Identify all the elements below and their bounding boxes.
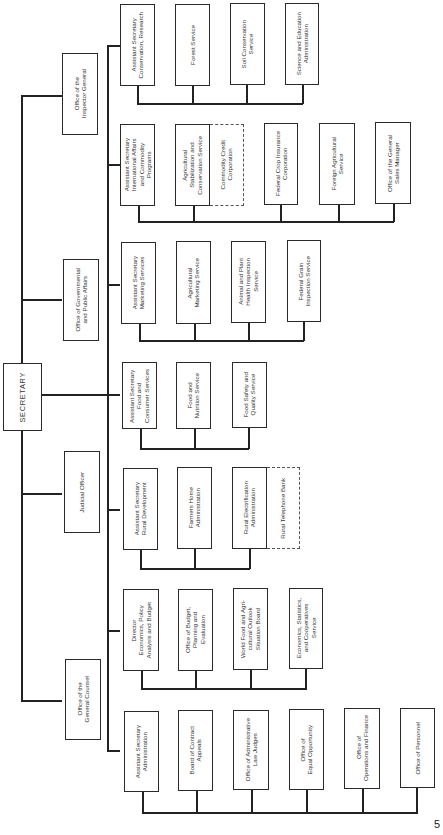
connector-public-affairs xyxy=(21,299,62,301)
food-drop-1 xyxy=(140,429,142,449)
ascs-label: Agricultural Stabilization and Conservat… xyxy=(181,136,203,195)
aphis-label: Animal and Plant Health Inspection Servi… xyxy=(237,258,259,306)
world-food-board-label: World Food and Agri- cultural Outlook Si… xyxy=(239,600,261,658)
grain-inspection-box[interactable]: Federal Grain Inspection Service xyxy=(287,240,321,322)
econ-drop-2 xyxy=(195,671,197,689)
food-safety-label: Food Safety and Quality Service xyxy=(242,372,257,417)
main-bus xyxy=(107,45,109,751)
admin-drop-3 xyxy=(251,790,253,813)
farmers-home-box[interactable]: Farmers Home Administration xyxy=(177,467,212,549)
intl-head-label: Assistant Secretary International Affair… xyxy=(123,138,153,191)
admin-head-box[interactable]: Assistant Secretary Administration xyxy=(124,711,159,792)
food-safety-box[interactable]: Food Safety and Quality Service xyxy=(232,362,267,428)
personnel-box[interactable]: Office of Personnel xyxy=(400,708,435,788)
bus-marketing xyxy=(107,284,120,286)
connector-judicial xyxy=(21,493,62,495)
ag-marketing-label: Agricultural Marketing Service xyxy=(186,258,201,308)
research-drop-1 xyxy=(137,86,139,104)
budget-planning-box[interactable]: Office of Budget, Planning and Evaluatio… xyxy=(178,589,213,671)
commodity-credit-label: Commodity Credit Corporation xyxy=(219,140,234,190)
world-food-board-box[interactable]: World Food and Agri- cultural Outlook Si… xyxy=(233,588,268,670)
food-head-label: Assistant Secretary Food and Consumer Se… xyxy=(128,369,150,423)
research-unit-bus xyxy=(137,103,303,105)
connector-inspector-general xyxy=(21,95,62,97)
secretary-label: SECRETARY xyxy=(19,372,26,423)
secretary-box[interactable]: SECRETARY xyxy=(3,363,42,431)
foreign-ag-box[interactable]: Foreign Agricultural Service xyxy=(319,123,355,205)
econ-head-label: Director Economics, Policy Analysis and … xyxy=(130,602,152,658)
soil-conservation-box[interactable]: Soil Conservation Service xyxy=(230,3,265,85)
intl-unit-bus xyxy=(138,221,394,223)
inspector-general-box[interactable]: Office of the Inspector General xyxy=(62,53,98,135)
public-affairs-box[interactable]: Office of Governmental and Public Affair… xyxy=(63,259,99,341)
bus-research xyxy=(107,45,120,47)
escs-box[interactable]: Economics, Statistics, and Cooperatives … xyxy=(289,588,323,669)
marketing-drop-3 xyxy=(248,323,250,341)
intl-head-box[interactable]: Assistant Secretary International Affair… xyxy=(120,124,155,206)
food-nutrition-box[interactable]: Food and Nutrition Service xyxy=(176,362,211,429)
admin-drop-5 xyxy=(362,789,364,813)
public-affairs-label: Office of Governmental and Public Affair… xyxy=(74,268,89,332)
admin-unit-bus xyxy=(142,812,418,814)
ag-marketing-box[interactable]: Agricultural Marketing Service xyxy=(176,241,211,324)
soil-conservation-label: Soil Conservation Service xyxy=(240,20,255,69)
econ-head-box[interactable]: Director Economics, Policy Analysis and … xyxy=(123,589,159,671)
admin-drop-1 xyxy=(142,792,144,813)
research-drop-3 xyxy=(246,85,248,104)
commodity-credit-box[interactable]: Commodity Credit Corporation xyxy=(210,124,244,206)
admin-drop-6 xyxy=(416,788,418,813)
admin-law-judges-label: Office of Administrative Law Judges xyxy=(244,718,259,781)
general-counsel-box[interactable]: Office of the General Counsel xyxy=(65,659,101,740)
food-drop-2 xyxy=(194,429,196,449)
marketing-head-label: Assistant Secretary Marketing Services xyxy=(131,256,146,309)
equal-opportunity-box[interactable]: Office of Equal Opportunity xyxy=(289,709,324,790)
bus-econ xyxy=(107,630,120,632)
inspector-general-label: Office of the Inspector General xyxy=(73,69,88,118)
admin-drop-2 xyxy=(196,791,198,813)
judicial-officer-label: Judicial Officer xyxy=(78,472,85,512)
general-counsel-label: Office of the General Counsel xyxy=(76,676,91,722)
rural-drop-1 xyxy=(140,550,142,569)
judicial-officer-box[interactable]: Judicial Officer xyxy=(64,451,100,533)
contract-appeals-box[interactable]: Board of Contract Appeals xyxy=(178,710,213,791)
econ-drop-4 xyxy=(305,669,307,689)
econ-drop-3 xyxy=(250,670,252,689)
crop-insurance-label: Federal Crop Insurance Corporation xyxy=(274,131,289,196)
general-sales-box[interactable]: Office of the General Sales Manager xyxy=(375,122,411,204)
contract-appeals-label: Board of Contract Appeals xyxy=(188,726,203,775)
rural-drop-3 xyxy=(249,549,251,569)
rural-drop-2 xyxy=(194,549,196,569)
econ-unit-bus xyxy=(141,688,307,690)
general-sales-label: Office of the General Sales Manager xyxy=(386,135,401,192)
operations-finance-label: Office of Operations and Finance xyxy=(355,715,370,781)
marketing-head-box[interactable]: Assistant Secretary Marketing Services xyxy=(121,242,156,324)
econ-drop-1 xyxy=(141,671,143,689)
farmers-home-label: Farmers Home Administration xyxy=(187,487,202,528)
ascs-box[interactable]: Agricultural Stabilization and Conservat… xyxy=(175,124,210,206)
rural-telephone-bank-box[interactable]: Rural Telephone Bank xyxy=(267,467,300,549)
marketing-drop-1 xyxy=(139,324,141,341)
food-nutrition-label: Food and Nutrition Service xyxy=(186,373,201,418)
grain-inspection-label: Federal Grain Inspection Service xyxy=(297,256,312,307)
science-education-box[interactable]: Science and Education Administration xyxy=(285,3,319,85)
bus-admin xyxy=(107,750,120,752)
aphis-box[interactable]: Animal and Plant Health Inspection Servi… xyxy=(231,241,266,323)
research-drop-2 xyxy=(192,86,194,104)
operations-finance-box[interactable]: Office of Operations and Finance xyxy=(344,708,380,789)
rural-head-label: Assistant Secretary Rural Development xyxy=(133,482,148,535)
escs-label: Economics, Statistics, and Cooperatives … xyxy=(295,598,317,658)
budget-planning-label: Office of Budget, Planning and Evaluatio… xyxy=(184,607,206,653)
crop-insurance-box[interactable]: Federal Crop Insurance Corporation xyxy=(264,123,298,205)
admin-drop-4 xyxy=(306,790,308,813)
forest-service-box[interactable]: Forest Service xyxy=(175,4,210,86)
science-education-label: Science and Education Administration xyxy=(295,12,310,75)
rural-electrification-box[interactable]: Rural Electrification Administration xyxy=(232,467,267,549)
rural-head-box[interactable]: Assistant Secretary Rural Development xyxy=(123,468,158,550)
research-head-box[interactable]: Assistant Secretary Conservation, Resear… xyxy=(120,4,155,86)
bus-food xyxy=(107,394,120,396)
admin-law-judges-box[interactable]: Office of Administrative Law Judges xyxy=(233,710,269,790)
food-head-box[interactable]: Assistant Secretary Food and Consumer Se… xyxy=(122,362,157,429)
marketing-unit-bus xyxy=(139,340,304,342)
research-head-label: Assistant Secretary Conservation, Resear… xyxy=(130,12,145,78)
connector-general-counsel xyxy=(21,700,62,702)
